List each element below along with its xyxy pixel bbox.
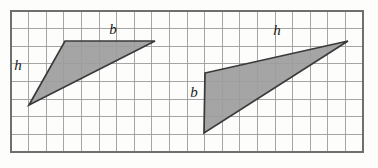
right-triangle bbox=[204, 41, 348, 133]
left-triangle-height-label: h bbox=[14, 57, 22, 73]
shaded-triangles bbox=[29, 41, 348, 133]
geometry-figure: hbbh bbox=[0, 0, 378, 168]
left-triangle bbox=[29, 41, 155, 105]
right-triangle-base-label: b bbox=[190, 84, 198, 100]
right-triangle-height-label: h bbox=[273, 22, 281, 38]
figure-canvas: hbbh bbox=[0, 0, 378, 168]
left-triangle-base-label: b bbox=[109, 21, 117, 37]
